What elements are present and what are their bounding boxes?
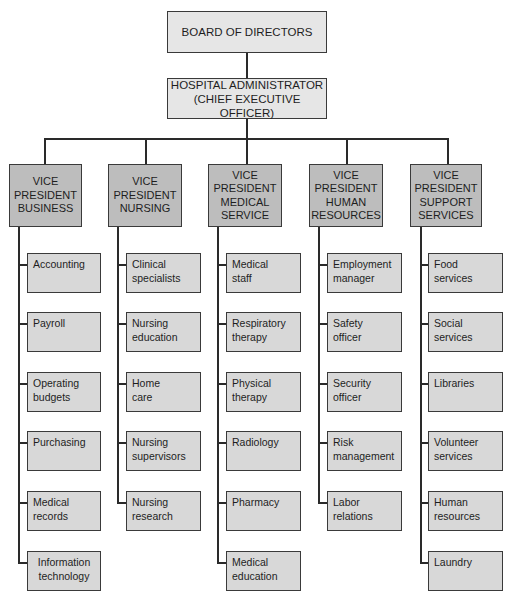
department-label-line: Accounting	[33, 258, 100, 272]
department-label-line: Social	[434, 317, 502, 331]
vp-title-line: VICE	[114, 175, 177, 189]
branch-line	[420, 264, 428, 266]
department-box: Accounting	[27, 253, 101, 293]
department-label-line: therapy	[232, 331, 300, 345]
vp-title-line: PRESIDENT	[114, 189, 177, 203]
department-label-line: therapy	[232, 391, 300, 405]
stem-line-business	[18, 227, 20, 563]
branch-line	[420, 383, 428, 385]
department-label-line: management	[333, 450, 401, 464]
department-label-line: Medical	[33, 496, 100, 510]
department-label-line: officer	[333, 391, 401, 405]
stem-line-human-resources	[318, 227, 320, 503]
branch-line	[18, 562, 27, 564]
department-box: Laborrelations	[327, 491, 402, 531]
vp-title-line: VICE	[415, 169, 478, 183]
vp-title-line: PRESIDENT	[415, 182, 478, 196]
branch-line	[217, 323, 226, 325]
department-label-line: Nursing	[132, 317, 200, 331]
stem-line-nursing	[117, 227, 119, 503]
department-box: Socialservices	[428, 312, 503, 352]
vp-title-line: VICE	[14, 175, 77, 189]
branch-line	[18, 383, 27, 385]
connector-board-admin	[246, 53, 248, 78]
branch-line	[318, 502, 327, 504]
branch-line	[318, 383, 327, 385]
department-label-line: specialists	[132, 272, 200, 286]
vp-support-services-box: VICEPRESIDENTSUPPORTSERVICES	[410, 164, 482, 227]
vp-nursing-box: VICEPRESIDENTNURSING	[108, 164, 182, 227]
department-label-line: Medical	[232, 556, 300, 570]
department-box: Nursingsupervisors	[126, 431, 201, 471]
department-label-line: budgets	[33, 391, 100, 405]
branch-line	[18, 442, 27, 444]
vp-title-line: NURSING	[114, 202, 177, 216]
department-box: Libraries	[428, 372, 503, 412]
department-label-line: manager	[333, 272, 401, 286]
department-label-line: Operating	[33, 377, 100, 391]
hospital-administrator-box: HOSPITAL ADMINISTRATOR (CHIEF EXECUTIVE …	[167, 78, 327, 119]
vp-title-line: BUSINESS	[14, 202, 77, 216]
branch-line	[420, 502, 428, 504]
department-label-line: Labor	[333, 496, 401, 510]
department-label-line: records	[33, 510, 100, 524]
vp-title-line: MEDICAL	[214, 196, 277, 210]
department-label-line: research	[132, 510, 200, 524]
branch-line	[18, 264, 27, 266]
admin-title: HOSPITAL ADMINISTRATOR	[168, 78, 326, 92]
vp-title-line: PRESIDENT	[214, 182, 277, 196]
branch-line	[217, 264, 226, 266]
branch-line	[318, 323, 327, 325]
department-label-line: Human	[434, 496, 502, 510]
department-box: Homecare	[126, 372, 201, 412]
connector-admin-bus	[246, 119, 248, 139]
branch-line	[117, 442, 126, 444]
department-label-line: resources	[434, 510, 502, 524]
department-label-line: supervisors	[132, 450, 200, 464]
department-label-line: Food	[434, 258, 502, 272]
department-label-line: Safety	[333, 317, 401, 331]
branch-line	[420, 442, 428, 444]
department-box: Nursingresearch	[126, 491, 201, 531]
department-box: Laundry	[428, 551, 503, 591]
admin-subtitle: (CHIEF EXECUTIVE OFFICER)	[168, 92, 326, 120]
department-box: Volunteerservices	[428, 431, 503, 471]
branch-line	[18, 502, 27, 504]
department-label-line: Nursing	[132, 496, 200, 510]
department-label-line: Home	[132, 377, 200, 391]
vp-title-line: PRESIDENT	[14, 189, 77, 203]
department-box: Safetyofficer	[327, 312, 402, 352]
department-label-line: Information	[28, 556, 100, 570]
branch-line	[117, 264, 126, 266]
vp-title-line: RESOURCES	[311, 209, 381, 223]
branch-line	[217, 502, 226, 504]
branch-line	[117, 502, 126, 504]
department-label-line: staff	[232, 272, 300, 286]
stem-line-support-services	[420, 227, 422, 563]
vp-title-line: SERVICES	[415, 209, 478, 223]
branch-line	[318, 442, 327, 444]
department-label-line: relations	[333, 510, 401, 524]
branch-line	[117, 323, 126, 325]
department-box: Securityofficer	[327, 372, 402, 412]
department-label-line: Payroll	[33, 317, 100, 331]
department-label-line: education	[232, 570, 300, 584]
department-box: Payroll	[27, 312, 101, 352]
drop-line-nursing	[145, 138, 147, 164]
department-box: Medicalrecords	[27, 491, 101, 531]
department-label-line: Clinical	[132, 258, 200, 272]
department-label-line: services	[434, 450, 502, 464]
department-box: Medicalstaff	[226, 253, 301, 293]
department-box: Purchasing	[27, 431, 101, 471]
department-label-line: Physical	[232, 377, 300, 391]
drop-line-human-resources	[346, 138, 348, 164]
department-box: Humanresources	[428, 491, 503, 531]
board-of-directors-box: BOARD OF DIRECTORS	[167, 11, 327, 53]
department-label-line: officer	[333, 331, 401, 345]
department-label-line: Purchasing	[33, 436, 100, 450]
branch-line	[217, 383, 226, 385]
branch-line	[18, 323, 27, 325]
vp-title-line: HUMAN	[311, 196, 381, 210]
department-box: Operatingbudgets	[27, 372, 101, 412]
department-box: Nursingeducation	[126, 312, 201, 352]
